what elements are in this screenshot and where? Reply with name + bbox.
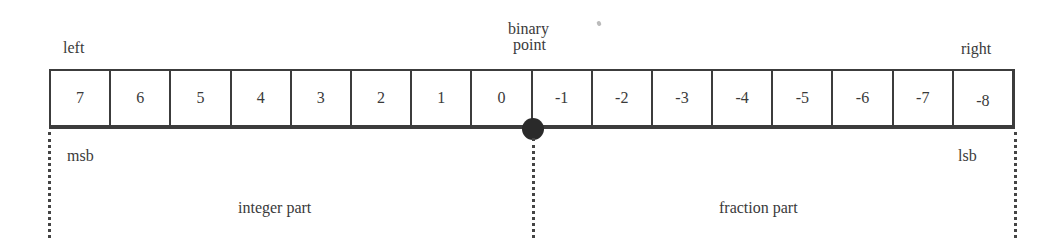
artifact-speck bbox=[596, 20, 602, 26]
left-boundary-dotted-line bbox=[48, 132, 51, 238]
bit-cell: 7 bbox=[51, 71, 111, 125]
bit-cell: 4 bbox=[232, 71, 292, 125]
bit-cell: 6 bbox=[111, 71, 171, 125]
bit-cell: -2 bbox=[593, 71, 653, 125]
bit-cell: 3 bbox=[292, 71, 352, 125]
bit-cell: -3 bbox=[653, 71, 713, 125]
binary-point-label-line1: binary bbox=[508, 21, 549, 37]
bit-cell: 0 bbox=[472, 71, 532, 125]
binary-point-label-line2: point bbox=[513, 37, 546, 53]
binary-point-dot-icon bbox=[522, 118, 544, 140]
lsb-label: lsb bbox=[958, 148, 977, 164]
bit-cell: -1 bbox=[533, 71, 593, 125]
right-label: right bbox=[961, 41, 991, 57]
fraction-part-label: fraction part bbox=[719, 200, 798, 216]
bit-cell: 2 bbox=[352, 71, 412, 125]
right-boundary-dotted-line bbox=[1014, 132, 1017, 238]
msb-label: msb bbox=[67, 148, 94, 164]
bit-cell: -6 bbox=[833, 71, 893, 125]
binary-point-dotted-line bbox=[532, 138, 535, 238]
bit-cell: 1 bbox=[412, 71, 472, 125]
integer-part-label: integer part bbox=[238, 200, 311, 216]
bit-cell: -5 bbox=[773, 71, 833, 125]
left-label: left bbox=[63, 40, 84, 56]
bit-cell: -7 bbox=[894, 71, 954, 125]
bit-cell: 5 bbox=[171, 71, 231, 125]
bit-cell: -4 bbox=[713, 71, 773, 125]
bit-cell: -8 bbox=[954, 71, 1012, 125]
